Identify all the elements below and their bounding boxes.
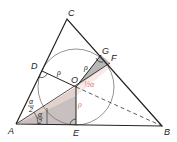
label-o: O	[71, 75, 78, 85]
dashed-ob	[76, 87, 162, 126]
label-alpha-top: α	[29, 98, 34, 105]
label-c: C	[68, 8, 75, 18]
label-rho-od: ρ	[56, 68, 61, 77]
label-d: D	[31, 61, 38, 71]
label-alpha-top-den: 2	[28, 106, 33, 113]
label-a: A	[7, 126, 14, 136]
label-alpha-bot-den: 2	[37, 118, 42, 125]
incircle-diagram: A B C D E F G O ρ ρ ρ α 2 α 2 ½α	[0, 0, 177, 142]
label-f: F	[111, 53, 117, 63]
label-b: B	[164, 127, 170, 137]
label-angle-gof: ½α	[84, 80, 95, 89]
label-rho-oe: ρ	[77, 100, 82, 109]
label-g: G	[102, 46, 109, 56]
label-rho-og: ρ	[83, 63, 88, 72]
label-e: E	[73, 128, 80, 138]
